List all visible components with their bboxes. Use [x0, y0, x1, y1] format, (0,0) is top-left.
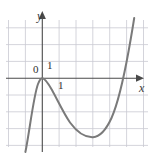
x-unit-tick-label: 1 [58, 80, 64, 91]
graph-figure: y x 0 1 1 [0, 0, 153, 153]
curve-cubic [25, 18, 134, 152]
x-axis-label: x [139, 82, 144, 94]
graph-canvas [0, 0, 153, 153]
y-axis-label: y [37, 10, 42, 22]
y-unit-tick-label: 1 [47, 60, 53, 71]
origin-tick-label: 0 [33, 64, 39, 75]
